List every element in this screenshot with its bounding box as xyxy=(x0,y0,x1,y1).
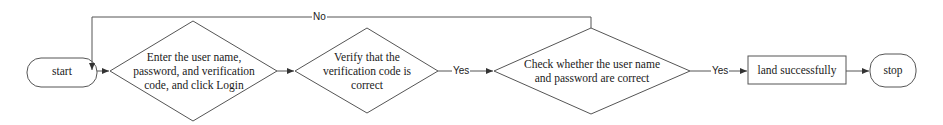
verify-line-2: verification code is xyxy=(307,64,427,78)
check-line-1: Check whether the user name xyxy=(506,57,678,71)
flowchart-canvas: start Enter the user name, password, and… xyxy=(0,0,943,125)
enter-line-2: password, and verification xyxy=(120,64,268,78)
verify-line-3: correct xyxy=(307,78,427,92)
check-line-2: and password are correct xyxy=(506,71,678,85)
enter-line-1: Enter the user name, xyxy=(120,50,268,64)
check-credentials-text: Check whether the user name and password… xyxy=(506,57,678,85)
edge-label-no: No xyxy=(312,11,327,22)
verify-code-text: Verify that the verification code is cor… xyxy=(307,50,427,92)
enter-line-3: code, and click Login xyxy=(120,78,268,92)
stop-label: stop xyxy=(870,63,916,77)
edge-label-yes-verify: Yes xyxy=(452,65,470,76)
enter-credentials-text: Enter the user name, password, and verif… xyxy=(120,50,268,92)
start-label: start xyxy=(27,64,97,78)
verify-line-1: Verify that the xyxy=(307,50,427,64)
land-successfully-label: land successfully xyxy=(748,63,846,77)
edge-label-yes-check: Yes xyxy=(711,65,729,76)
